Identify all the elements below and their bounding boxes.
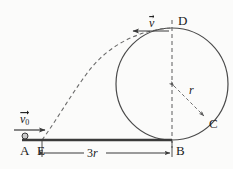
radius-label-r: r <box>189 84 194 96</box>
vector-label-v0: v0 <box>20 113 29 127</box>
point-label-a: A <box>20 144 29 157</box>
point-label-b: B <box>176 144 185 157</box>
point-label-d: D <box>178 14 187 27</box>
vector-overbar-icon <box>149 14 154 19</box>
physics-diagram: A E B C D v0 v 3r r <box>0 0 233 169</box>
vector-label-v: v <box>149 17 154 29</box>
ball-at-a <box>22 133 28 139</box>
vector-overbar-icon <box>20 110 29 115</box>
point-label-e: E <box>37 144 45 157</box>
point-label-c: C <box>209 117 218 130</box>
diagram-canvas <box>0 0 233 169</box>
dimension-label-3r: 3r <box>87 147 98 159</box>
dimension-label-3r-symbol: r <box>93 146 98 160</box>
trajectory-dashed-curve <box>42 28 170 140</box>
vector-label-v0-subscript: 0 <box>25 118 29 127</box>
